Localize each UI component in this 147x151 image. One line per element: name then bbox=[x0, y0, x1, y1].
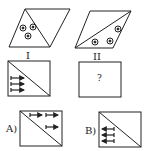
figure-2-parallelogram bbox=[75, 11, 131, 48]
figure-2-label: II bbox=[93, 52, 101, 62]
option-a-rectangle bbox=[20, 111, 62, 146]
puzzle-canvas bbox=[0, 0, 147, 151]
option-b-rectangle bbox=[99, 112, 141, 147]
figure-1-parallelogram bbox=[9, 9, 70, 47]
arrow-right-icon bbox=[11, 76, 24, 92]
arrow-left-icon bbox=[102, 127, 114, 143]
question-mark: ? bbox=[97, 74, 102, 83]
option-b-label[interactable]: B) bbox=[85, 126, 96, 136]
option-a-label[interactable]: A) bbox=[6, 124, 17, 134]
circled-dot-icon bbox=[92, 26, 121, 45]
figure-3-rectangle bbox=[8, 61, 50, 96]
circled-dot-icon bbox=[20, 24, 36, 39]
arrow-right-icon bbox=[30, 113, 58, 129]
figure-1-label: I bbox=[26, 51, 30, 61]
